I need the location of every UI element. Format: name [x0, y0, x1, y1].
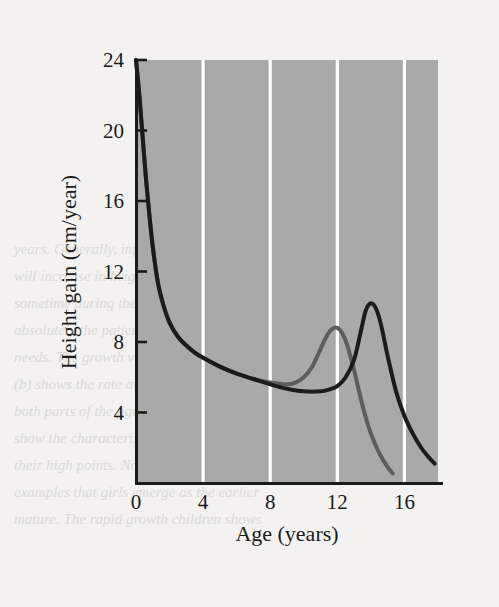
y-tick-label-12: 12	[103, 260, 124, 284]
figure-page: years. Generally, infants and toddlers w…	[0, 0, 499, 607]
x-tick-label-12: 12	[327, 490, 348, 514]
y-tick-label-8: 8	[114, 330, 125, 354]
plot-area-background	[136, 60, 438, 483]
x-axis-title: Age (years)	[235, 521, 338, 546]
y-tick-label-16: 16	[103, 189, 124, 213]
y-axis-title: Height gain (cm/year)	[56, 175, 81, 369]
x-axis-ticks: 0481216	[131, 490, 415, 514]
y-tick-label-4: 4	[114, 401, 125, 425]
y-tick-label-24: 24	[103, 48, 125, 72]
x-tick-label-4: 4	[198, 490, 209, 514]
growth-velocity-chart: 4812162024 0481216 Age (years) Height ga…	[0, 0, 499, 607]
y-tick-label-20: 20	[103, 119, 124, 143]
x-tick-label-0: 0	[131, 490, 142, 514]
chart-svg: 4812162024 0481216 Age (years) Height ga…	[0, 0, 499, 607]
x-tick-label-8: 8	[265, 490, 276, 514]
x-tick-label-16: 16	[394, 490, 415, 514]
